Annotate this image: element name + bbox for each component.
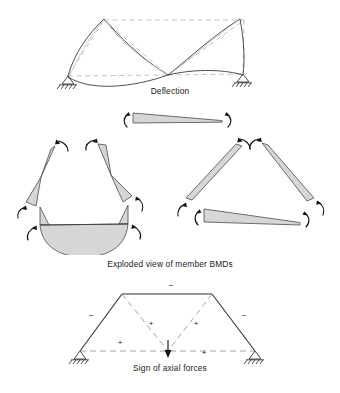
bmd-top-beam (124, 112, 231, 127)
axial-force-diagram: − − − + + + + (0, 272, 340, 372)
structural-figure: Deflection (0, 0, 340, 393)
deflected-shape (68, 19, 244, 86)
deflection-caption: Deflection (0, 86, 340, 96)
sign-right-diagonal: + (194, 319, 199, 328)
bmd-caption: Exploded view of member BMDs (0, 259, 340, 269)
point-load-arrow (165, 340, 172, 358)
exploded-bmd-diagram (0, 105, 340, 255)
axial-caption: Sign of axial forces (0, 363, 340, 373)
sign-left-tie: + (118, 338, 123, 347)
bmd-right-bay-right-rafter (250, 138, 324, 215)
sign-right-tie: + (202, 348, 207, 357)
deflection-diagram (0, 0, 340, 100)
bmd-left-bay-bottom-member (27, 205, 140, 255)
sign-top-chord: − (169, 281, 174, 290)
sign-right-rafter: − (242, 311, 247, 320)
bmd-left-bay-left-rafter (18, 140, 68, 218)
sign-left-rafter: − (89, 311, 94, 320)
bmd-left-bay-right-rafter (86, 139, 143, 211)
bmd-right-bay-bottom-member (195, 209, 309, 227)
sign-left-diagonal: + (149, 319, 154, 328)
bmd-right-bay-left-rafter (178, 138, 250, 216)
